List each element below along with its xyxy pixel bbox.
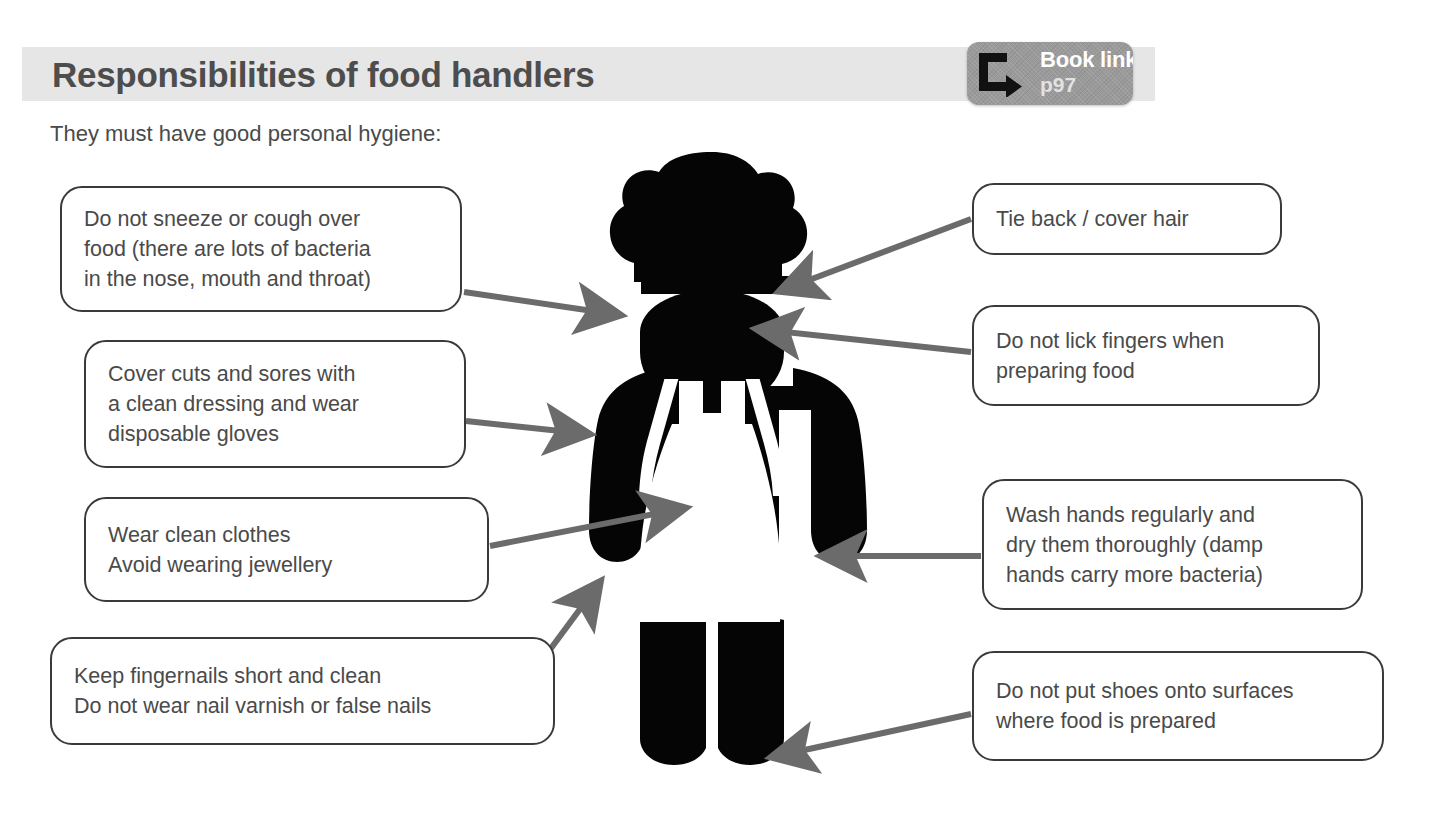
book-link-page: p97	[1040, 73, 1076, 97]
arrow-clothes-to-apron	[490, 508, 685, 546]
callout-cover-cuts: Cover cuts and sores with a clean dressi…	[84, 340, 466, 468]
callout-do-not-sneeze: Do not sneeze or cough over food (there …	[60, 186, 462, 312]
callout-clean-clothes: Wear clean clothes Avoid wearing jewelle…	[84, 497, 489, 602]
page-title: Responsibilities of food handlers	[52, 50, 952, 100]
arrow-nails-to-hand	[549, 582, 600, 651]
callout-no-shoes: Do not put shoes onto surfaces where foo…	[972, 651, 1384, 761]
callout-tie-back-hair: Tie back / cover hair	[972, 183, 1282, 255]
arrow-shoes-to-feet	[772, 714, 971, 757]
callout-do-not-lick: Do not lick fingers when preparing food	[972, 305, 1320, 406]
arrow-hair-to-hat	[780, 219, 971, 291]
book-link-label: Book link	[1040, 47, 1133, 73]
arrow-cuts-to-arm	[466, 421, 589, 434]
callout-fingernails: Keep fingernails short and clean Do not …	[50, 637, 555, 745]
book-link-badge[interactable]: Book link p97	[967, 42, 1133, 105]
page-subtitle: They must have good personal hygiene:	[50, 121, 441, 147]
arrow-lick-to-mouth	[757, 329, 971, 352]
callout-wash-hands: Wash hands regularly and dry them thorou…	[982, 479, 1363, 610]
hook-arrow-icon	[975, 51, 1035, 97]
arrow-sneeze-to-face	[464, 292, 620, 315]
diagram-page: Responsibilities of food handlers They m…	[0, 0, 1455, 825]
